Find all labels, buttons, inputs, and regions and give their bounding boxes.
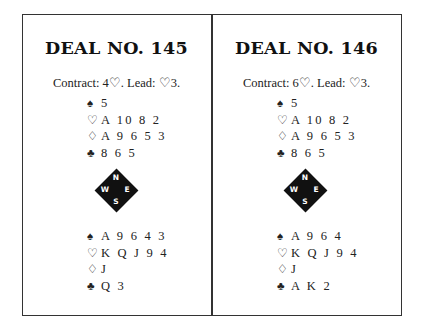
club-icon: ♣: [277, 145, 291, 162]
hand-row-diamonds: ♢A 9 6 5 3: [87, 128, 167, 145]
hand-row-clubs: ♣Q 3: [87, 278, 169, 295]
north-hand: ♠5 ♡A 10 8 2 ♢A 9 6 5 3 ♣8 6 5: [277, 95, 357, 161]
compass-east-label: E: [311, 186, 321, 194]
contract-lead-text: Contract: 4♡. Lead: ♡3.: [22, 75, 211, 91]
cards: A K 2: [291, 279, 332, 293]
deal-title: DEAL NO. 145: [22, 38, 211, 58]
heart-icon: ♡: [87, 112, 101, 129]
hand-row-clubs: ♣8 6 5: [87, 145, 167, 162]
hand-row-spades: ♠5: [87, 95, 167, 112]
diamond-icon: ♢: [277, 261, 291, 278]
hand-row-hearts: ♡K Q J 9 4: [277, 245, 359, 262]
club-icon: ♣: [87, 278, 101, 295]
compass-diamond-icon: N W E S: [94, 168, 138, 212]
compass-north-label: N: [300, 174, 310, 182]
spade-icon: ♠: [277, 95, 291, 112]
hand-row-spades: ♠A 9 6 4: [277, 228, 359, 245]
deal-panel-146: DEAL NO. 146 Contract: 6♡. Lead: ♡3. ♠5 …: [212, 14, 401, 314]
cards: K Q J 9 4: [101, 246, 169, 260]
spade-icon: ♠: [87, 228, 101, 245]
north-hand: ♠5 ♡A 10 8 2 ♢A 9 6 5 3 ♣8 6 5: [87, 95, 167, 161]
hand-row-diamonds: ♢A 9 6 5 3: [277, 128, 357, 145]
cards: Q 3: [101, 279, 126, 293]
heart-icon: ♡: [277, 112, 291, 129]
hand-row-spades: ♠5: [277, 95, 357, 112]
spade-icon: ♠: [277, 228, 291, 245]
hand-row-hearts: ♡A 10 8 2: [87, 112, 167, 129]
cards: K Q J 9 4: [291, 246, 359, 260]
diamond-icon: ♢: [87, 261, 101, 278]
cards: A 10 8 2: [291, 113, 351, 127]
cards: A 9 6 4 3: [101, 229, 167, 243]
hand-row-clubs: ♣8 6 5: [277, 145, 357, 162]
cards: 8 6 5: [291, 146, 327, 160]
contract-lead-text: Contract: 6♡. Lead: ♡3.: [212, 75, 401, 91]
compass-east-label: E: [122, 186, 132, 194]
deal-title: DEAL NO. 146: [212, 38, 401, 58]
heart-icon: ♡: [277, 245, 291, 262]
spade-icon: ♠: [87, 95, 101, 112]
hand-row-clubs: ♣A K 2: [277, 278, 359, 295]
hand-row-hearts: ♡K Q J 9 4: [87, 245, 169, 262]
deal-panel-145: DEAL NO. 145 Contract: 4♡. Lead: ♡3. ♠5 …: [22, 14, 211, 314]
heart-icon: ♡: [87, 245, 101, 262]
club-icon: ♣: [277, 278, 291, 295]
cards: A 9 6 5 3: [291, 129, 357, 143]
cards: A 10 8 2: [101, 113, 161, 127]
hand-row-spades: ♠A 9 6 4 3: [87, 228, 169, 245]
compass-south-label: S: [111, 198, 121, 206]
cards: A 9 6 5 3: [101, 129, 167, 143]
cards: 5: [291, 96, 299, 110]
diamond-icon: ♢: [87, 128, 101, 145]
club-icon: ♣: [87, 145, 101, 162]
compass-diamond-icon: N W E S: [283, 168, 327, 212]
compass-north-label: N: [111, 174, 121, 182]
south-hand: ♠A 9 6 4 3 ♡K Q J 9 4 ♢J ♣Q 3: [87, 228, 169, 294]
diamond-icon: ♢: [277, 128, 291, 145]
cards: A 9 6 4: [291, 229, 343, 243]
cards: 8 6 5: [101, 146, 137, 160]
hand-row-diamonds: ♢J: [277, 261, 359, 278]
compass-west-label: W: [100, 186, 110, 194]
cards: 5: [101, 96, 109, 110]
compass-west-label: W: [289, 186, 299, 194]
compass-south-label: S: [300, 198, 310, 206]
cards: J: [101, 262, 108, 276]
hand-row-hearts: ♡A 10 8 2: [277, 112, 357, 129]
cards: J: [291, 262, 298, 276]
south-hand: ♠A 9 6 4 ♡K Q J 9 4 ♢J ♣A K 2: [277, 228, 359, 294]
hand-row-diamonds: ♢J: [87, 261, 169, 278]
